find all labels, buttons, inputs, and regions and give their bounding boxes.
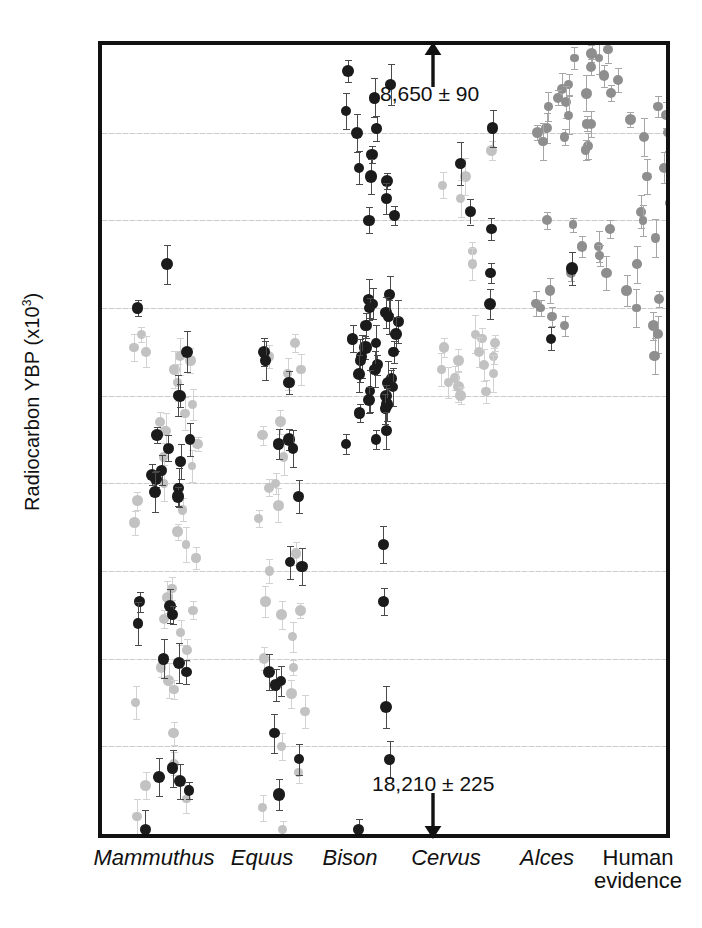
- data-point: [649, 351, 659, 361]
- error-bar-cap: [601, 87, 608, 88]
- data-point: [341, 106, 351, 116]
- data-point: [167, 609, 178, 620]
- error-bar-cap: [545, 92, 552, 93]
- error-bar-cap: [278, 666, 285, 667]
- error-bar-cap: [266, 496, 273, 497]
- error-bar-cap: [302, 728, 309, 729]
- error-bar-cap: [469, 242, 476, 243]
- error-bar-cap: [177, 764, 184, 765]
- data-point: [439, 342, 450, 353]
- data-point: [264, 483, 274, 493]
- error-bar-cap: [368, 159, 375, 160]
- error-bar-cap: [163, 413, 170, 414]
- error-bar-cap: [656, 291, 663, 292]
- error-bar-cap: [383, 728, 390, 729]
- error-bar-cap: [298, 385, 305, 386]
- error-bar-cap: [571, 69, 578, 70]
- error-bar-cap: [133, 719, 140, 720]
- y-axis-title: Radiocarbon YBP (x103): [20, 222, 44, 582]
- error-bar-cap: [273, 473, 280, 474]
- error-bar-cap: [186, 782, 193, 783]
- data-point: [289, 663, 298, 672]
- error-bar-cap: [491, 364, 498, 365]
- error-bar-cap: [559, 73, 566, 74]
- error-bar-cap: [633, 327, 640, 328]
- error-bar-cap: [262, 617, 269, 618]
- data-point: [191, 553, 200, 562]
- error-bar-cap: [287, 579, 294, 580]
- error-bar-cap: [492, 335, 499, 336]
- data-point: [369, 92, 381, 104]
- error-bar-cap: [290, 675, 297, 676]
- error-bar-cap: [359, 335, 366, 336]
- error-bar-cap: [597, 266, 604, 267]
- error-bar-cap: [149, 464, 156, 465]
- data-point: [603, 45, 613, 54]
- error-bar-cap: [186, 799, 193, 800]
- data-point: [642, 172, 652, 182]
- error-bar-cap: [296, 513, 303, 514]
- error-bar-cap: [548, 327, 555, 328]
- data-point: [168, 728, 178, 738]
- error-bar-cap: [152, 512, 159, 513]
- error-bar-cap: [183, 813, 190, 814]
- data-point: [455, 158, 466, 169]
- data-point: [381, 193, 392, 204]
- error-bar-cap: [195, 451, 202, 452]
- error-bar-cap: [458, 404, 465, 405]
- data-point: [175, 456, 186, 467]
- data-point: [595, 54, 604, 63]
- data-point: [594, 242, 604, 252]
- error-bar-cap: [624, 275, 631, 276]
- error-bar-cap: [652, 338, 659, 339]
- error-bar-cap: [583, 160, 590, 161]
- error-bar-cap: [183, 684, 190, 685]
- error-bar-cap: [279, 733, 286, 734]
- error-bar-cap: [184, 331, 191, 332]
- error-bar-cap: [640, 236, 647, 237]
- error-bar-cap: [663, 102, 666, 103]
- data-point: [363, 394, 375, 406]
- error-bar-cap: [156, 796, 163, 797]
- error-bar-cap: [615, 92, 622, 93]
- error-bar-cap: [260, 821, 267, 822]
- error-bar-cap: [275, 522, 282, 523]
- data-point: [465, 206, 476, 217]
- data-point: [185, 434, 195, 444]
- data-point: [172, 526, 182, 536]
- error-bar-cap: [608, 85, 615, 86]
- error-bar-cap: [458, 217, 465, 218]
- error-bar-cap: [170, 624, 177, 625]
- error-bar-cap: [488, 263, 495, 264]
- data-point: [665, 199, 666, 208]
- error-bar-cap: [134, 799, 141, 800]
- data-point: [599, 70, 609, 80]
- error-bar-cap: [367, 298, 374, 299]
- data-point: [163, 443, 174, 454]
- error-bar-cap: [634, 283, 641, 284]
- error-bar-cap: [383, 183, 390, 184]
- error-bar-cap: [176, 643, 183, 644]
- data-point: [188, 400, 197, 409]
- data-point: [270, 679, 281, 690]
- error-bar-cap: [562, 316, 569, 317]
- error-bar-cap: [135, 602, 142, 603]
- data-point: [181, 667, 191, 677]
- error-bar-cap: [391, 225, 398, 226]
- error-bar-cap: [458, 387, 465, 388]
- error-bar-cap: [540, 123, 547, 124]
- error-bar-cap: [383, 385, 390, 386]
- data-point: [639, 216, 648, 225]
- error-bar-cap: [356, 184, 363, 185]
- error-bar-cap: [154, 427, 161, 428]
- error-bar-cap: [138, 342, 145, 343]
- gridline-15: [102, 571, 666, 572]
- error-bar-cap: [438, 353, 445, 354]
- data-point: [132, 495, 143, 506]
- error-bar-cap: [489, 160, 496, 161]
- error-bar-cap: [164, 581, 171, 582]
- data-point: [300, 707, 309, 716]
- error-bar-cap: [438, 386, 445, 387]
- error-bar-cap: [382, 394, 389, 395]
- error-bar-cap: [187, 423, 194, 424]
